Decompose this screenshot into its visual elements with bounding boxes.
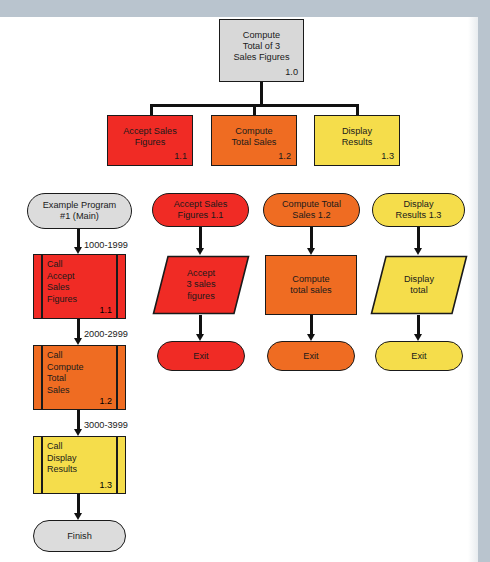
module-1-1-process: Accept 3 sales figures [152, 255, 250, 315]
hierarchy-module-1-2-number: 1.2 [278, 151, 291, 162]
connector-root-stem [260, 82, 263, 105]
scan-edge-right-fade [468, 17, 478, 562]
main-range-3: 3000-3999 [84, 420, 128, 430]
module-1-2-header-label: Compute Total Sales 1.2 [282, 199, 341, 221]
main-terminal-finish: Finish [33, 520, 126, 552]
module-1-3-exit: Exit [375, 341, 463, 371]
module-1-2-exit-label: Exit [303, 351, 318, 362]
predef-bar-right [116, 437, 118, 493]
main-terminal-finish-label: Finish [67, 531, 92, 542]
main-call-module-1-1: Call Accept Sales Figures 1.1 [33, 254, 126, 319]
main-call-module-1-1-label: Call Accept Sales Figures [47, 259, 77, 305]
module-1-3-header-label: Display Results 1.3 [396, 199, 442, 221]
hierarchy-module-1-1: Accept Sales Figures 1.1 [107, 115, 193, 166]
hierarchy-module-1-2: Compute Total Sales 1.2 [211, 115, 297, 166]
main-terminal-start-label: Example Program #1 (Main) [43, 200, 117, 222]
module-1-1-process-label: Accept 3 sales figures [152, 255, 250, 315]
main-call-module-1-2-number: 1.2 [99, 396, 112, 406]
predef-bar-left [41, 346, 43, 409]
predef-bar-left [41, 255, 43, 318]
hierarchy-module-1-2-label: Compute Total Sales [228, 126, 281, 148]
module-1-2-header: Compute Total Sales 1.2 [263, 193, 360, 227]
main-call-module-1-3-number: 1.3 [99, 480, 112, 490]
hierarchy-root-module: Compute Total of 3 Sales Figures 1.0 [219, 19, 304, 82]
main-call-module-1-3-label: Call Display Results [47, 441, 77, 476]
diagram-page: Compute Total of 3 Sales Figures 1.0 Acc… [0, 0, 490, 562]
scan-edge-top [0, 0, 490, 17]
hierarchy-module-1-1-number: 1.1 [174, 151, 187, 162]
predef-bar-left [41, 437, 43, 493]
module-1-2-process-label: Compute total sales [290, 274, 331, 296]
module-1-3-process: Display total [370, 255, 468, 315]
hierarchy-module-1-3-label: Display Results [338, 126, 377, 148]
hierarchy-root-label: Compute Total of 3 Sales Figures [229, 30, 293, 63]
predef-bar-right [116, 346, 118, 409]
module-1-3-process-label: Display total [370, 255, 468, 315]
module-1-2-process: Compute total sales [265, 255, 357, 315]
main-terminal-start: Example Program #1 (Main) [27, 193, 132, 229]
predef-bar-right [116, 255, 118, 318]
module-1-3-header: Display Results 1.3 [372, 193, 465, 227]
main-call-module-1-2-label: Call Compute Total Sales [47, 350, 84, 396]
main-call-module-1-3: Call Display Results 1.3 [33, 436, 126, 494]
module-1-1-header: Accept Sales Figures 1.1 [152, 193, 249, 227]
scan-edge-right [478, 0, 490, 562]
main-range-2: 2000-2999 [84, 329, 128, 339]
module-1-1-header-label: Accept Sales Figures 1.1 [174, 199, 228, 221]
main-call-module-1-2: Call Compute Total Sales 1.2 [33, 345, 126, 410]
hierarchy-module-1-3-number: 1.3 [381, 151, 394, 162]
module-1-3-exit-label: Exit [411, 351, 426, 362]
hierarchy-module-1-3: Display Results 1.3 [314, 115, 400, 166]
module-1-1-exit: Exit [157, 341, 245, 371]
module-1-2-exit: Exit [267, 341, 355, 371]
main-call-module-1-1-number: 1.1 [99, 305, 112, 315]
module-1-1-exit-label: Exit [193, 351, 208, 362]
hierarchy-module-1-1-label: Accept Sales Figures [119, 126, 181, 148]
hierarchy-root-number: 1.0 [285, 67, 298, 78]
main-range-1: 1000-1999 [84, 240, 128, 250]
